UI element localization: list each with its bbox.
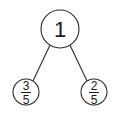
whole-node: 1 bbox=[41, 10, 79, 48]
right-part-denominator: 5 bbox=[91, 93, 98, 107]
left-part-node: 3 5 bbox=[13, 79, 39, 107]
number-bond-diagram: 1 3 5 2 5 bbox=[0, 0, 115, 115]
whole-value: 1 bbox=[54, 17, 66, 42]
edge-whole-to-right-part bbox=[70, 45, 87, 81]
left-part-denominator: 5 bbox=[23, 93, 30, 107]
edge-whole-to-left-part bbox=[33, 45, 50, 81]
right-part-numerator: 2 bbox=[91, 79, 98, 93]
right-part-node: 2 5 bbox=[81, 79, 107, 107]
left-part-numerator: 3 bbox=[23, 79, 30, 93]
